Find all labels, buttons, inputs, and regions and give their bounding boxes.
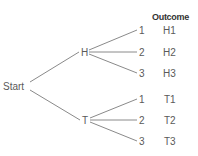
branch-start-t <box>30 90 80 120</box>
leaf-t2-label: 2 <box>139 115 145 126</box>
outcome-t2: T2 <box>164 115 176 126</box>
branch-start-h <box>30 52 79 82</box>
outcome-t3: T3 <box>164 136 176 147</box>
branch-t-1 <box>90 99 137 118</box>
branch-h-3 <box>89 54 137 73</box>
leaf-h1-label: 1 <box>139 25 145 36</box>
outcome-h3: H3 <box>163 68 176 79</box>
leaf-t3-label: 3 <box>139 136 145 147</box>
outcome-h1: H1 <box>163 25 176 36</box>
tree-diagram: Outcome Start H T 1 2 3 1 2 3 H1 H2 H3 T… <box>0 0 198 156</box>
outcome-t1: T1 <box>164 94 176 105</box>
leaf-h3-label: 3 <box>139 68 145 79</box>
branch-t-3 <box>90 122 137 141</box>
leaf-h2-label: 2 <box>139 47 145 58</box>
leaf-t1-label: 1 <box>139 94 145 105</box>
node-h-label: H <box>81 47 88 58</box>
branch-h-1 <box>89 30 137 50</box>
outcome-header: Outcome <box>152 12 189 22</box>
root-node-label: Start <box>3 81 24 92</box>
node-t-label: T <box>82 115 88 126</box>
outcome-h2: H2 <box>163 47 176 58</box>
